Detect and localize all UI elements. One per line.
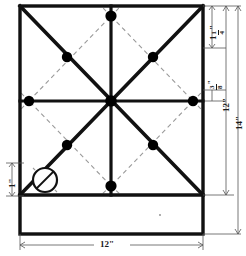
print-speck <box>159 214 161 216</box>
dimension-label-inner-height: 12" <box>222 98 231 112</box>
dot-upper-right <box>148 52 158 62</box>
dimension-label-3-8: 38" <box>208 80 224 90</box>
dot-mid-left <box>24 96 34 106</box>
hole-marker-group <box>33 168 57 192</box>
dot-mid-right <box>188 96 198 106</box>
dim-3-8-fraction: 38 <box>209 85 224 91</box>
dot-lower-right <box>148 140 158 150</box>
dim-12-width-text: 12" <box>100 239 114 249</box>
dot-center <box>105 95 117 107</box>
dimension-label-overall-height: 14" <box>235 116 244 130</box>
dimension-label-hole-offset: 1" <box>8 179 17 189</box>
dot-top-center <box>105 10 116 21</box>
dimension-label-overall-width: 12" <box>100 240 114 249</box>
dim-3-8-suffix: " <box>208 80 216 84</box>
dim-1-offset-text: 1" <box>7 179 17 189</box>
dim-1-1-4-suffix: " <box>209 25 218 30</box>
technical-drawing-figure: 114" 38" 12" 14" 12" 1" <box>0 0 246 256</box>
dim-14-height-text: 14" <box>234 116 244 130</box>
dot-lower-left <box>62 140 72 150</box>
dim-1-1-4-whole: 1 <box>209 36 218 41</box>
dimension-label-1-1-4: 114" <box>209 25 226 40</box>
dim-1-1-4-fraction: 14 <box>211 30 226 36</box>
dot-upper-left <box>62 52 72 62</box>
dim-12-height-text: 12" <box>221 98 231 112</box>
dot-bottom-center <box>105 180 116 191</box>
